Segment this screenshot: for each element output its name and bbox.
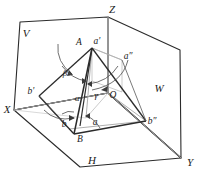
label-point-a-lower: a	[93, 117, 98, 127]
label-plane-v: V	[23, 27, 31, 39]
label-plane-w: W	[154, 82, 164, 94]
descriptive-geometry-figure: V H W X Y Z A a' a″ a B b' b″ b O α β γ	[0, 0, 200, 177]
rotation-arc-near-B	[62, 111, 74, 114]
label-point-a-double-prime: a″	[124, 51, 134, 61]
label-axis-y: Y	[187, 156, 195, 168]
label-point-b-prime: b'	[28, 86, 36, 96]
plane-w-outline	[108, 17, 181, 158]
label-origin: O	[110, 90, 117, 100]
rotation-arc-alpha-arrowhead	[69, 115, 75, 121]
label-point-b-double-prime: b″	[148, 116, 158, 126]
label-point-a-upper: A	[75, 37, 82, 47]
label-angle-beta: β	[62, 68, 68, 78]
label-point-a-prime: a'	[94, 36, 102, 46]
label-angle-alpha: α	[75, 93, 80, 103]
segment-b-to-B	[69, 129, 74, 134]
figure-canvas: V H W X Y Z A a' a″ a B b' b″ b O α β γ	[0, 0, 200, 177]
label-plane-h: H	[87, 154, 97, 166]
rotation-arc-gamma-arrowhead	[87, 81, 92, 87]
construction-lines	[14, 17, 146, 129]
label-axis-z: Z	[109, 3, 116, 15]
segment-A-to-B	[74, 48, 92, 134]
label-point-b-lower: b	[62, 119, 67, 129]
label-angle-gamma: γ	[94, 90, 98, 100]
construction-h-fold	[14, 110, 86, 118]
label-axis-x: X	[3, 103, 12, 115]
label-point-B-upper: B	[77, 134, 83, 144]
figure-labels: V H W X Y Z A a' a″ a B b' b″ b O α β γ	[3, 3, 195, 168]
